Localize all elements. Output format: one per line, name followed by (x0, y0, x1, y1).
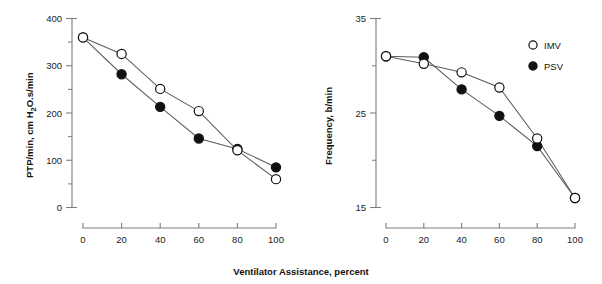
right-y-major-ticks (370, 19, 376, 208)
svg-text:PTP/min, cm H2O.s/min: PTP/min, cm H2O.s/min (24, 72, 38, 178)
data-point-imv-x60 (194, 107, 203, 116)
svg-text:Frequency, b/min: Frequency, b/min (323, 87, 334, 165)
data-point-psv-x60 (495, 111, 504, 120)
left-xtick-100: 100 (268, 234, 284, 245)
right-xtick-20: 20 (419, 234, 430, 245)
left-y-axis-title: PTP/min, cm H2O.s/min (24, 72, 38, 178)
chart-panel-left: PTP/min, cm H2O.s/min (0, 0, 301, 284)
legend-label-imv: IMV (544, 40, 562, 51)
left-xtick-20: 20 (116, 234, 127, 245)
left-plot-svg: PTP/min, cm H2O.s/min (0, 0, 301, 284)
data-point-imv-x0 (78, 33, 87, 42)
right-x-axis-line (386, 223, 575, 228)
data-point-psv-x100 (271, 163, 280, 172)
right-xtick-40: 40 (456, 234, 467, 245)
data-point-imv-x80 (533, 134, 542, 143)
right-ytick-15: 15 (355, 202, 366, 213)
legend-marker-psv-filled-circle-icon (529, 62, 537, 70)
shared-x-axis-title: Ventilator Assistance, percent (0, 261, 602, 279)
legend-marker-imv-open-circle-icon (529, 41, 537, 49)
left-ytick-0: 0 (57, 202, 62, 213)
right-series-group (381, 52, 579, 203)
data-point-psv-x60 (194, 134, 203, 143)
left-xtick-60: 60 (194, 234, 205, 245)
right-y-axis-line (376, 19, 381, 208)
data-point-imv-x40 (457, 68, 466, 77)
data-point-imv-x0 (381, 52, 390, 61)
chart-panel-right: Frequency, b/min 35 25 15 (301, 0, 602, 284)
data-point-psv-x20 (117, 70, 126, 79)
left-x-tick-labels: 0 20 40 60 80 100 (80, 234, 284, 245)
right-xtick-0: 0 (383, 234, 388, 245)
right-plot-svg: Frequency, b/min 35 25 15 (301, 0, 602, 284)
left-xtick-80: 80 (232, 234, 243, 245)
right-y-axis-title: Frequency, b/min (323, 87, 334, 165)
legend-label-psv: PSV (544, 61, 564, 72)
right-xtick-60: 60 (494, 234, 505, 245)
left-x-axis-line (83, 223, 276, 228)
left-ytick-100: 100 (46, 155, 62, 166)
series-line-imv (83, 37, 276, 179)
data-point-imv-x20 (419, 59, 428, 68)
shared-x-axis-title-text: Ventilator Assistance, percent (233, 266, 368, 277)
right-xtick-100: 100 (567, 234, 583, 245)
left-ytick-400: 400 (46, 13, 62, 24)
series-line-psv (386, 56, 575, 198)
right-ytick-35: 35 (355, 13, 366, 24)
right-ytick-25: 25 (355, 108, 366, 119)
series-line-psv (83, 37, 276, 167)
left-ytick-300: 300 (46, 60, 62, 71)
data-point-imv-x40 (156, 84, 165, 93)
data-point-imv-x20 (117, 49, 126, 58)
left-xtick-0: 0 (80, 234, 85, 245)
data-point-imv-x100 (570, 193, 579, 202)
right-x-tick-labels: 0 20 40 60 80 100 (383, 234, 583, 245)
right-x-ticks (424, 223, 537, 228)
data-point-imv-x80 (233, 146, 242, 155)
right-y-tick-labels: 35 25 15 (355, 13, 366, 213)
legend: IMV PSV (529, 40, 564, 72)
series-line-imv (386, 56, 575, 198)
left-xtick-40: 40 (155, 234, 166, 245)
data-point-imv-x100 (271, 175, 280, 184)
figure-container: PTP/min, cm H2O.s/min (0, 0, 602, 284)
left-y-major-ticks (66, 19, 72, 208)
data-point-psv-x40 (156, 102, 165, 111)
left-ytick-200: 200 (46, 108, 62, 119)
data-point-imv-x60 (495, 83, 504, 92)
left-y-axis-line (72, 19, 77, 208)
data-point-psv-x40 (457, 85, 466, 94)
left-y-tick-labels: 400 300 200 100 0 (46, 13, 62, 213)
left-series-group (78, 33, 280, 184)
right-xtick-80: 80 (532, 234, 543, 245)
left-x-ticks (122, 223, 238, 228)
